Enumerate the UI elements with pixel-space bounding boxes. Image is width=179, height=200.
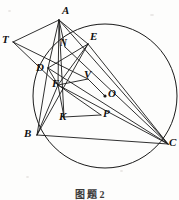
segment-D-C	[48, 68, 168, 144]
figure-caption: 图 题 2	[0, 186, 179, 200]
segment-E-C	[88, 44, 168, 144]
geometry-figure: ATENDVOFKPBC 图 题 2	[0, 0, 179, 200]
paper-speck	[120, 170, 123, 172]
paper-speck	[26, 176, 29, 178]
segment-N-C	[65, 47, 168, 144]
vertex-label-T: T	[2, 34, 9, 45]
segment-A-C	[59, 20, 168, 144]
segment-F-B	[37, 85, 58, 135]
vertex-label-O: O	[108, 88, 116, 99]
vertex-label-F: F	[52, 78, 59, 89]
point-dot-O	[103, 94, 106, 97]
vertex-label-V: V	[84, 69, 91, 80]
vertex-label-N: N	[60, 39, 67, 49]
segment-B-C	[37, 135, 168, 144]
point-dot-group	[103, 94, 106, 97]
segment-T-V	[13, 42, 88, 79]
vertex-label-B: B	[24, 128, 31, 139]
vertex-label-E: E	[90, 31, 97, 42]
vertex-label-C: C	[169, 137, 176, 148]
segment-D-E	[48, 44, 88, 68]
vertex-label-D: D	[36, 62, 44, 73]
segment-A-T	[13, 20, 59, 42]
paper-speck	[8, 10, 11, 12]
vertex-label-A: A	[62, 5, 69, 16]
vertex-label-K: K	[59, 111, 66, 122]
paper-speck	[150, 14, 154, 16]
segment-A-D	[48, 20, 59, 68]
segment-K-P	[64, 115, 101, 117]
vertex-label-P: P	[103, 108, 110, 119]
segment-V-O	[88, 79, 105, 96]
